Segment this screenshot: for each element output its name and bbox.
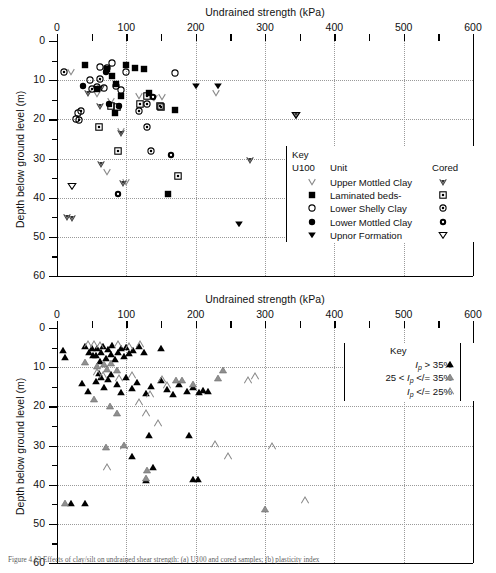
figure-caption: Figure 4.13 Effects of clay/silt on undr… (8, 556, 494, 564)
tick-y-minor (52, 543, 57, 544)
tick-x-major (404, 34, 405, 41)
data-point-filled-triangle-up (100, 383, 109, 391)
data-point-gray-triangle-up (90, 395, 99, 403)
tick-label-y: 50 (19, 230, 45, 242)
tick-x-major (334, 34, 335, 41)
tick-x-major (126, 34, 127, 41)
tick-label-x: 0 (37, 21, 77, 33)
legend-title: Key (390, 345, 407, 356)
tick-label-y: 0 (19, 34, 45, 46)
data-point-filled-circle-with-hole (148, 92, 157, 101)
axis-line-y (57, 41, 58, 276)
gridline-horizontal (57, 406, 473, 407)
data-point-filled-triangle-up (147, 382, 156, 390)
data-point-open-circle (108, 58, 117, 67)
data-point-filled-circle (79, 81, 88, 90)
tick-label-y: 0 (19, 321, 45, 333)
tick-label-x: 400 (314, 21, 354, 33)
legend-label-0: Upper Mottled Clay (330, 177, 412, 188)
data-point-filled-triangle-up (144, 431, 153, 439)
tick-y-minor (52, 217, 57, 218)
tick-label-y: 40 (19, 478, 45, 490)
tick-label-x: 600 (453, 308, 493, 320)
tick-y-major (49, 276, 57, 277)
tick-label-y: 10 (19, 73, 45, 85)
tick-x-major (473, 321, 474, 328)
data-point-gray-triangle-up (143, 466, 152, 474)
data-point-gray-filled-chevron-down (245, 156, 254, 165)
tick-x-minor (369, 34, 370, 41)
tick-y-minor (52, 256, 57, 257)
data-point-gray-triangle-up (141, 474, 150, 482)
data-point-circle-with-dot (75, 116, 84, 125)
legend-marker-open-chevron-down (308, 178, 317, 187)
data-point-open-triangle-up (134, 398, 143, 406)
tick-label-y: 20 (19, 399, 45, 411)
data-point-filled-square (140, 65, 149, 74)
tick-y-minor (52, 387, 57, 388)
legend-marker-open-triangle-up (446, 387, 455, 395)
tick-x-minor (300, 321, 301, 328)
data-point-filled-circle (105, 100, 114, 109)
data-point-open-triangle-up (145, 390, 154, 398)
data-point-circle-with-dot (59, 67, 68, 76)
legend-marker-gray-filled-chevron-down (439, 178, 448, 187)
data-point-open-circle (122, 68, 131, 77)
tick-label-y: 10 (19, 360, 45, 372)
data-point-open-circle (116, 85, 125, 94)
data-point-filled-circle-with-hole (167, 150, 176, 159)
data-point-filled-triangle-up (116, 388, 125, 396)
tick-y-minor (52, 504, 57, 505)
tick-label-y: 60 (19, 269, 45, 281)
tick-x-major (265, 34, 266, 41)
chart-panel-bottom: Undrained strength (kPa) Depth below gro… (0, 287, 496, 573)
data-point-square-with-dot (174, 172, 183, 181)
tick-y-minor (52, 348, 57, 349)
data-point-gray-triangle-up (219, 366, 228, 374)
data-point-gray-triangle-up (188, 380, 197, 388)
legend-bottom: KeyIp > 35%25 < Ip </= 35%Ip </= 25% (344, 343, 476, 401)
data-point-open-triangle-up (154, 419, 163, 427)
data-point-gray-triangle-up (177, 376, 186, 384)
chart-panel-top: Undrained strength (kPa) Depth below gro… (0, 0, 496, 286)
data-point-circle-with-dot (146, 146, 155, 155)
tick-x-major (57, 321, 58, 328)
tick-x-minor (92, 321, 93, 328)
data-point-open-triangle-up (114, 340, 123, 348)
data-point-open-triangle-up (211, 440, 220, 448)
data-point-open-triangle-down (67, 181, 77, 190)
data-point-open-chevron-down (102, 168, 111, 177)
data-point-filled-triangle-up (184, 431, 193, 439)
data-point-filled-triangle-up (61, 353, 70, 361)
tick-x-minor (92, 34, 93, 41)
axis-line-x (57, 276, 473, 277)
data-point-open-circle (100, 84, 109, 93)
data-point-gray-filled-chevron-down (116, 129, 125, 138)
tick-x-major (404, 321, 405, 328)
tick-x-minor (369, 321, 370, 328)
legend-label-3: Lower Mottled Clay (330, 217, 412, 228)
legend-header-unit: Unit (330, 162, 347, 173)
tick-y-major (49, 406, 57, 407)
data-point-square-with-dot (94, 123, 103, 132)
data-point-filled-triangle-up (83, 387, 92, 395)
tick-y-major (49, 159, 57, 160)
tick-x-major (57, 34, 58, 41)
tick-label-y: 30 (19, 439, 45, 451)
tick-label-y: 50 (19, 517, 45, 529)
tick-y-major (49, 119, 57, 120)
tick-x-minor (161, 34, 162, 41)
data-point-filled-triangle-up (80, 499, 89, 507)
tick-label-x: 600 (453, 21, 493, 33)
legend-marker-filled-triangle-up (446, 360, 455, 368)
tick-y-minor (52, 61, 57, 62)
legend-marker-open-circle (308, 204, 317, 213)
tick-label-y: 40 (19, 191, 45, 203)
data-point-gray-triangle-up (213, 374, 222, 382)
legend-marker-gray-triangle-up (446, 373, 455, 381)
data-point-open-triangle-up (141, 409, 150, 417)
data-point-square-with-dot (155, 101, 164, 110)
tick-y-major (49, 328, 57, 329)
data-point-filled-triangle-up (140, 348, 149, 356)
data-point-filled-circle-with-hole (114, 189, 123, 198)
